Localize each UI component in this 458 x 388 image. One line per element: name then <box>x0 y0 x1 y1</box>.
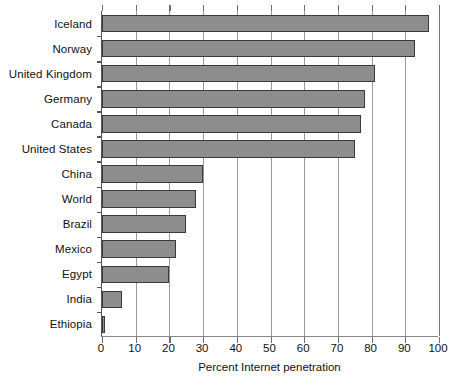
x-axis-tick <box>169 5 170 11</box>
bar <box>102 316 105 334</box>
category-label: Iceland <box>0 18 92 30</box>
bar <box>102 165 203 183</box>
category-label: United States <box>0 143 92 155</box>
x-axis-tick-label: 0 <box>98 341 104 355</box>
y-axis-tick <box>97 312 102 313</box>
category-label: India <box>0 293 92 305</box>
bar <box>102 240 176 258</box>
x-axis-tick-label: 100 <box>428 341 447 355</box>
bar <box>102 291 122 309</box>
gridline <box>304 11 305 336</box>
x-axis-tick-label: 60 <box>297 341 310 355</box>
bar <box>102 90 365 108</box>
category-label: Norway <box>0 43 92 55</box>
y-axis-tick <box>97 161 102 162</box>
gridline <box>338 11 339 336</box>
category-label: World <box>0 193 92 205</box>
gridline <box>405 11 406 336</box>
bar <box>102 215 186 233</box>
category-label: Canada <box>0 118 92 130</box>
y-axis-tick <box>97 36 102 37</box>
plot-area <box>101 11 438 337</box>
x-axis-tick <box>102 5 103 11</box>
category-label: Ethiopia <box>0 318 92 330</box>
x-axis-tick-label: 50 <box>263 341 276 355</box>
x-axis-tick <box>136 5 137 11</box>
y-axis-tick <box>97 61 102 62</box>
bar <box>102 266 169 284</box>
x-axis-tick <box>405 5 406 11</box>
x-axis-tick-label: 20 <box>162 341 175 355</box>
x-axis-tick-label: 40 <box>229 341 242 355</box>
x-axis-title: Percent Internet penetration <box>101 361 438 373</box>
y-axis-tick <box>97 237 102 238</box>
category-label: Egypt <box>0 268 92 280</box>
bar <box>102 40 415 58</box>
x-axis-tick <box>271 5 272 11</box>
x-axis-tick <box>304 5 305 11</box>
gridline <box>271 11 272 336</box>
bar <box>102 65 375 83</box>
category-label: Mexico <box>0 243 92 255</box>
bar <box>102 190 196 208</box>
category-label: Germany <box>0 93 92 105</box>
y-axis-tick <box>97 187 102 188</box>
x-axis-tick-label: 30 <box>196 341 209 355</box>
bar <box>102 15 429 33</box>
category-label: China <box>0 168 92 180</box>
x-axis-tick-label: 70 <box>330 341 343 355</box>
x-axis-tick <box>237 5 238 11</box>
x-axis-tick <box>439 5 440 11</box>
value-axis-tick-labels: 0102030405060708090100 <box>101 341 438 357</box>
x-axis-tick <box>338 5 339 11</box>
gridline <box>439 11 440 336</box>
bar <box>102 115 361 133</box>
gridline <box>372 11 373 336</box>
gridline <box>237 11 238 336</box>
x-axis-tick-label: 80 <box>364 341 377 355</box>
category-label: United Kingdom <box>0 68 92 80</box>
y-axis-tick <box>97 287 102 288</box>
y-axis-tick <box>97 136 102 137</box>
y-axis-tick <box>97 111 102 112</box>
bar <box>102 140 355 158</box>
x-axis-tick-label: 90 <box>398 341 411 355</box>
x-axis-tick <box>203 5 204 11</box>
category-label: Brazil <box>0 218 92 230</box>
category-axis-labels: IcelandNorwayUnited KingdomGermanyCanada… <box>0 11 92 337</box>
x-axis-tick-label: 10 <box>128 341 141 355</box>
bar-chart: IcelandNorwayUnited KingdomGermanyCanada… <box>0 0 458 388</box>
y-axis-tick <box>97 86 102 87</box>
gridline <box>203 11 204 336</box>
x-axis-tick <box>372 5 373 11</box>
y-axis-tick <box>97 262 102 263</box>
y-axis-tick <box>97 212 102 213</box>
